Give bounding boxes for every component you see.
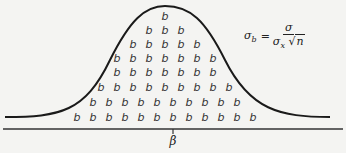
- estimate-b: b: [106, 97, 113, 108]
- estimate-b: b: [234, 112, 241, 123]
- estimate-b: b: [178, 25, 185, 36]
- estimate-b: b: [74, 112, 81, 123]
- estimate-b: b: [122, 97, 129, 108]
- estimate-b: b: [170, 97, 177, 108]
- estimate-b: b: [98, 82, 105, 93]
- estimate-b: b: [114, 67, 121, 78]
- estimate-b: b: [162, 25, 169, 36]
- estimate-b: b: [202, 97, 209, 108]
- estimate-b: b: [178, 82, 185, 93]
- estimate-b: b: [106, 112, 113, 123]
- estimate-b: b: [226, 82, 233, 93]
- estimate-b: b: [162, 53, 169, 64]
- estimate-b: b: [162, 39, 169, 50]
- estimate-b: b: [146, 25, 153, 36]
- estimate-b: b: [154, 97, 161, 108]
- beta-axis-label: β: [170, 134, 177, 148]
- estimate-b: b: [114, 53, 121, 64]
- estimate-b: b: [194, 39, 201, 50]
- estimate-b: b: [130, 82, 137, 93]
- estimate-b: b: [114, 82, 121, 93]
- estimate-b: b: [178, 67, 185, 78]
- formula-lhs: σb: [244, 29, 257, 44]
- estimate-b: b: [218, 97, 225, 108]
- estimate-b: b: [138, 97, 145, 108]
- estimate-b: b: [130, 67, 137, 78]
- estimate-b: b: [90, 112, 97, 123]
- estimate-b: b: [186, 112, 193, 123]
- estimate-b: b: [154, 112, 161, 123]
- formula-fraction: σ σx √n: [273, 22, 305, 51]
- estimate-b: b: [138, 112, 145, 123]
- estimate-b: b: [146, 67, 153, 78]
- estimate-b: b: [194, 67, 201, 78]
- estimate-b: b: [186, 97, 193, 108]
- estimate-b: b: [146, 53, 153, 64]
- estimate-b: b: [194, 82, 201, 93]
- estimate-b: b: [122, 112, 129, 123]
- estimate-b: b: [162, 11, 169, 22]
- estimate-b: b: [210, 82, 217, 93]
- estimate-b: b: [210, 53, 217, 64]
- estimate-b: b: [202, 112, 209, 123]
- estimate-b: b: [162, 82, 169, 93]
- estimate-b: b: [178, 39, 185, 50]
- formula-numerator: σ: [283, 22, 295, 35]
- estimate-b: b: [130, 53, 137, 64]
- sampling-distribution-diagram: bbbbbbbbbbbbbbbbbbbbbbbbbbbbbbbbbbbbbbbb…: [0, 0, 346, 153]
- estimate-b: b: [130, 39, 137, 50]
- estimate-b: b: [170, 112, 177, 123]
- estimate-b: b: [234, 97, 241, 108]
- estimate-b: b: [194, 53, 201, 64]
- estimate-b: b: [162, 67, 169, 78]
- standard-error-formula: σb = σ σx √n: [244, 22, 305, 51]
- estimate-b: b: [218, 112, 225, 123]
- formula-equals: =: [261, 30, 270, 43]
- estimate-b: b: [146, 82, 153, 93]
- estimate-b: b: [178, 53, 185, 64]
- formula-denominator: σx √n: [273, 35, 305, 51]
- estimate-b: b: [146, 39, 153, 50]
- estimate-b: b: [90, 97, 97, 108]
- estimate-b: b: [250, 112, 257, 123]
- estimate-b: b: [210, 67, 217, 78]
